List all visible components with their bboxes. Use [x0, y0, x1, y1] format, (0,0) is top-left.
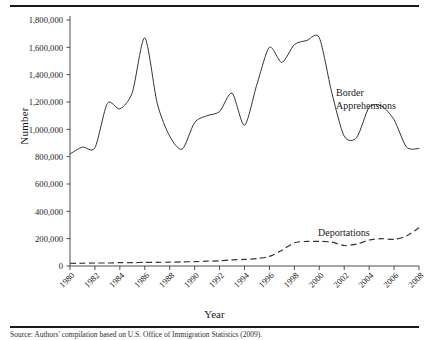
figure-bottom-rule — [10, 326, 419, 328]
x-axis-tick-label: 1996 — [257, 270, 277, 290]
x-axis-title: Year — [0, 308, 429, 320]
x-axis-tick-label: 2008 — [406, 270, 425, 289]
y-axis-tick-label: 400,000 — [35, 207, 63, 217]
series-label-border-apprehensions-line1: Border — [336, 87, 364, 98]
x-axis-tick-label: 1986 — [132, 270, 152, 290]
series-label-deportations: Deportations — [318, 227, 370, 238]
y-axis-title: Number — [18, 86, 30, 166]
y-axis-tick-label: 1,000,000 — [29, 125, 63, 135]
y-axis-tick-label: 800,000 — [35, 152, 63, 162]
line-chart: 0200,000400,000600,000800,0001,000,0001,… — [0, 8, 429, 308]
x-axis-tick-label: 2000 — [306, 270, 325, 289]
y-axis-tick-label: 1,600,000 — [29, 43, 63, 53]
figure-source-note: Source: Authors' compilation based on U.… — [10, 330, 425, 340]
series-label-border-apprehensions-line2: Apprehensions — [336, 100, 396, 111]
x-axis-tick-label: 2002 — [331, 270, 350, 289]
figure-container: 0200,000400,000600,000800,0001,000,0001,… — [0, 0, 429, 340]
series-line-border-apprehensions — [70, 35, 419, 154]
y-axis-tick-label: 1,200,000 — [29, 97, 63, 107]
y-axis-tick-label: 0 — [59, 261, 63, 271]
x-axis-tick-label: 1984 — [107, 270, 127, 290]
x-axis-tick-label: 1980 — [57, 270, 76, 289]
y-axis-tick-label: 1,400,000 — [29, 70, 63, 80]
x-axis-tick-label: 2006 — [381, 270, 401, 290]
x-axis-tick-label: 2004 — [356, 270, 376, 290]
y-axis-tick-label: 600,000 — [35, 179, 63, 189]
x-axis-tick-group: 1980198219841986198819901992199419961998… — [57, 266, 425, 290]
y-axis-tick-label: 200,000 — [35, 234, 63, 244]
figure-top-rule — [10, 5, 419, 7]
chart-plot-area: 0200,000400,000600,000800,0001,000,0001,… — [0, 8, 429, 308]
x-axis-tick-label: 1998 — [282, 270, 301, 289]
x-axis-tick-label: 1994 — [232, 270, 252, 290]
x-axis-tick-label: 1992 — [207, 270, 226, 289]
y-axis-tick-label: 1,800,000 — [29, 15, 63, 25]
x-axis-tick-label: 1990 — [182, 270, 201, 289]
y-axis-tick-group: 0200,000400,000600,000800,0001,000,0001,… — [29, 15, 70, 271]
x-axis-tick-label: 1988 — [157, 270, 176, 289]
x-axis-tick-label: 1982 — [82, 270, 101, 289]
